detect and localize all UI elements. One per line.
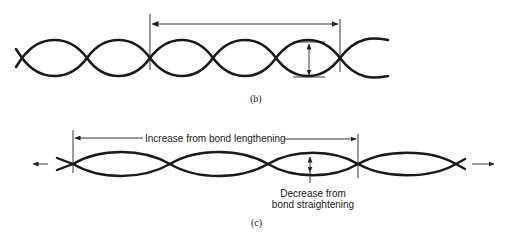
helix-diagram: (b) Increase from bond lengthening Decre…: [0, 0, 514, 234]
increase-label: Increase from bond lengthening: [145, 133, 286, 144]
caption-b: (b): [250, 93, 262, 105]
caption-c: (c): [251, 217, 262, 229]
decrease-label-line2: bond straightening: [272, 199, 354, 210]
panel-c: Increase from bond lengthening Decrease …: [33, 130, 494, 229]
helix-c-strand-upper: [57, 152, 465, 176]
helix-c-strand-lower: [57, 152, 465, 176]
decrease-label-line1: Decrease from: [280, 188, 346, 199]
panel-b: (b): [16, 14, 388, 105]
